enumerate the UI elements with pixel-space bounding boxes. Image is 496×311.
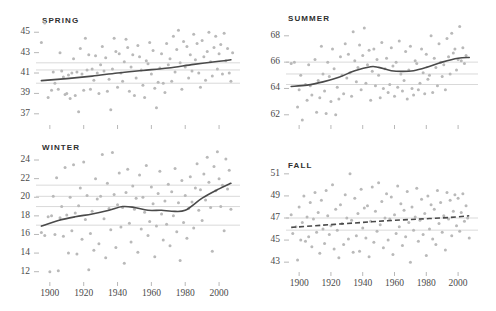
scatter-point [290,213,293,216]
scatter-point [403,209,406,212]
scatter-point [423,212,426,215]
scatter-point [312,218,315,221]
scatter-point [404,235,407,238]
scatter-point [328,233,331,236]
scatter-point [414,215,417,218]
scatter-point [341,222,344,225]
y-tick-label: 43 [254,256,280,266]
scatter-point [339,203,342,206]
scatter-point [299,239,302,242]
scatter-point [369,220,372,223]
scatter-point [388,218,391,221]
scatter-point [323,242,326,245]
scatter-point [352,251,355,254]
scatter-point [441,231,444,234]
scatter-point [412,229,415,232]
scatter-point [439,201,442,204]
chart-panel-fall: FALL4345474951190019201940196019802000 [0,0,496,311]
scatter-point [387,239,390,242]
x-tick-label: 2000 [438,278,478,288]
scatter-point [457,197,460,200]
trend-line [291,216,469,228]
scatter-point [398,225,401,228]
scatter-point [301,221,304,224]
scatter-point [406,190,409,193]
scatter-point [436,189,439,192]
scatter-point [374,210,377,213]
scatter-point [428,228,431,231]
scatter-point [407,221,410,224]
y-tick-label: 49 [254,190,280,200]
scatter-point [433,208,436,211]
scatter-point [461,192,464,195]
scatter-point [336,229,339,232]
scatter-point [337,256,340,259]
scatter-point [395,232,398,235]
scatter-point [383,217,386,220]
scatter-point [415,187,418,190]
scatter-point [334,208,337,211]
scatter-point [393,213,396,216]
scatter-point [442,214,445,217]
scatter-point [463,220,466,223]
y-tick-label: 45 [254,234,280,244]
scatter-point [453,193,456,196]
scatter-point [331,183,334,186]
scatter-point [296,258,299,261]
scatter-point [368,255,371,258]
scatter-point [399,202,402,205]
scatter-point [358,250,361,253]
scatter-point [307,235,310,238]
scatter-point [355,234,358,237]
scatter-point [342,243,345,246]
scatter-point [458,230,461,233]
scatter-point [468,236,471,239]
scatter-point [452,210,455,213]
scatter-point [314,191,317,194]
scatter-point [390,196,393,199]
scatter-point [321,228,324,231]
scatter-point [418,219,421,222]
scatter-point [409,261,412,264]
scatter-point [422,233,425,236]
scatter-point [317,211,320,214]
scatter-point [449,199,452,202]
scatter-point [426,194,429,197]
scatter-point [431,237,434,240]
scatter-point [315,231,318,234]
scatter-point [360,188,363,191]
scatter-point [353,197,356,200]
scatter-point [385,192,388,195]
scatter-point [420,198,423,201]
scatter-point [466,217,469,220]
y-tick-label: 51 [254,168,280,178]
plot-surface [0,0,496,311]
scatter-point [396,184,399,187]
scatter-point [391,253,394,256]
scatter-point [326,214,329,217]
seasonal-trend-figure: SPRING3739414345SUMMER62646668WINTER1214… [0,0,496,311]
panel-title: FALL [288,161,312,170]
scatter-point [376,230,379,233]
scatter-point [306,215,309,218]
scatter-point [333,247,336,250]
scatter-point [350,219,353,222]
scatter-point [364,236,367,239]
scatter-point [450,234,453,237]
scatter-point [401,244,404,247]
scatter-point [318,252,321,255]
scatter-point [363,207,366,210]
scatter-point [465,204,468,207]
scatter-point [356,212,359,215]
scatter-point [344,193,347,196]
scatter-point [294,225,297,228]
scatter-point [382,246,385,249]
scatter-point [380,200,383,203]
scatter-point [347,237,350,240]
scatter-point [349,172,352,175]
scatter-point [377,181,380,184]
scatter-point [434,243,437,246]
scatter-point [291,232,294,235]
scatter-point [309,201,312,204]
scatter-point [438,222,441,225]
